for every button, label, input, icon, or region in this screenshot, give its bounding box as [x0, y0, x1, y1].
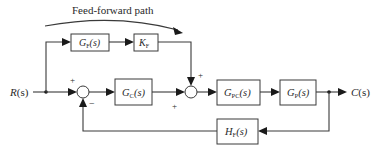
block-diagram: Feed-forward path R(s) GF(s) KF + + − GC… [0, 0, 378, 154]
sum2-sign-left: + [172, 101, 177, 111]
feed-forward-title: Feed-forward path [72, 4, 154, 16]
arrowhead-icon [62, 38, 71, 46]
sum1-sign-bottom: − [89, 98, 95, 109]
svg-text:GF(s): GF(s) [79, 37, 101, 49]
block-gc: GC(s) [115, 79, 152, 105]
arrowhead-icon [208, 88, 217, 96]
arrowhead-icon [79, 98, 87, 107]
sum2-sign-top: + [198, 70, 203, 80]
block-gpc: GPC(s) [217, 80, 260, 105]
line-kf-to-sum2 [158, 42, 191, 83]
summing-junction-1 [77, 86, 89, 98]
sum1-sign-left: + [70, 75, 75, 85]
svg-text:HF(s): HF(s) [224, 126, 248, 138]
block-gp: GP(s) [280, 80, 316, 105]
summing-junction-2 [185, 86, 197, 98]
arrowhead-icon [338, 88, 347, 96]
arrowhead-icon [187, 77, 195, 86]
block-kf: KF [134, 34, 158, 51]
arrowhead-icon [176, 88, 185, 96]
input-label: R(s) [9, 86, 29, 99]
feed-forward-arc [45, 20, 178, 30]
arrowhead-icon [271, 88, 280, 96]
feed-forward-arc-arrowhead-icon [173, 27, 183, 35]
arrowhead-icon [258, 127, 267, 135]
line-branch-to-gf [46, 42, 68, 92]
svg-text:GP(s): GP(s) [287, 87, 310, 99]
arrowhead-icon [68, 88, 77, 96]
block-hf: HF(s) [217, 119, 258, 144]
svg-text:C(s): C(s) [351, 86, 370, 99]
svg-text:GC(s): GC(s) [122, 87, 146, 99]
svg-text:R(s): R(s) [9, 86, 29, 99]
arrowhead-icon [125, 38, 134, 46]
output-label: C(s) [351, 86, 370, 99]
block-gf: GF(s) [71, 34, 109, 51]
arrowhead-icon [106, 88, 115, 96]
